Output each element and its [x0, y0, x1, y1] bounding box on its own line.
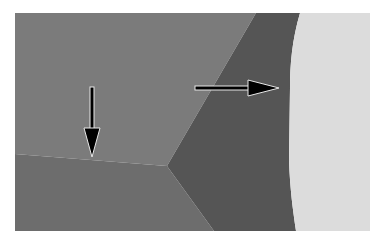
micrograph-figure: [0, 0, 381, 241]
micrograph-image: [0, 0, 381, 241]
grain-light-right: [289, 13, 370, 231]
